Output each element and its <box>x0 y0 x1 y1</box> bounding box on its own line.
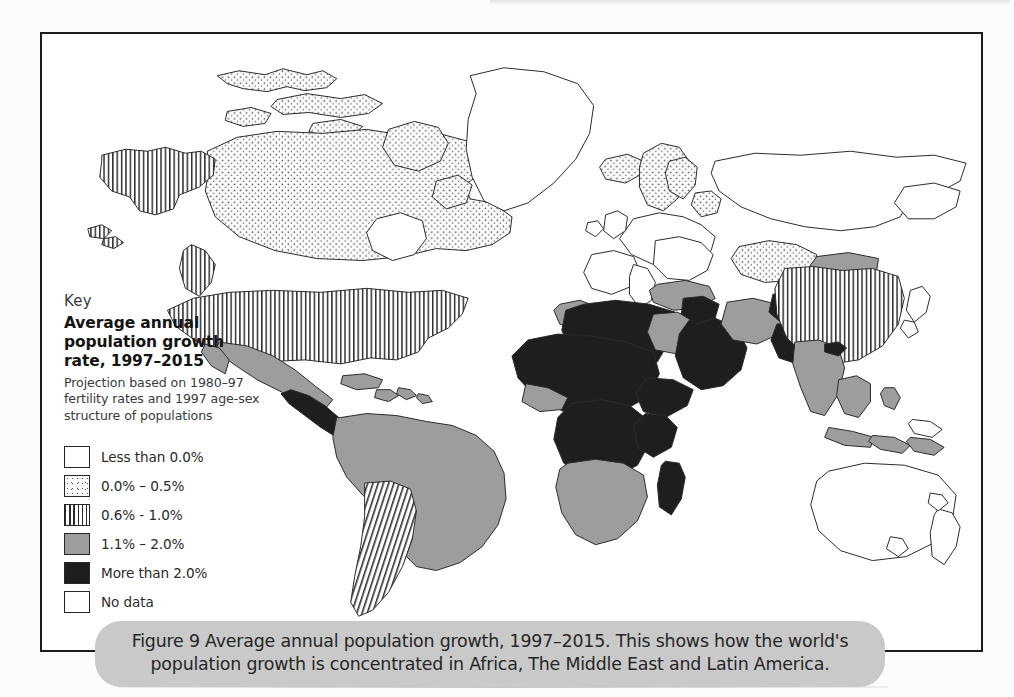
legend-subtitle-line-2: fertility rates and 1997 age-sex <box>64 391 274 408</box>
legend-item-more-than-2[interactable]: More than 2.0% <box>64 559 274 588</box>
legend-swatch-white-icon <box>64 446 90 468</box>
legend-title-line-1: Average annual <box>64 314 274 333</box>
legend-title-line-3: rate, 1997–2015 <box>64 352 274 371</box>
legend-item-label: More than 2.0% <box>101 565 207 581</box>
legend-item-0-6-to-1-0[interactable]: 0.6% - 1.0% <box>64 501 274 530</box>
legend-item-label: 0.0% – 0.5% <box>101 478 184 494</box>
legend-item-1-1-to-2-0[interactable]: 1.1% – 2.0% <box>64 530 274 559</box>
legend-item-label: Less than 0.0% <box>101 449 204 465</box>
legend-item-label: No data <box>101 594 154 610</box>
legend-item-0-to-0-5[interactable]: 0.0% – 0.5% <box>64 472 274 501</box>
legend-swatch-lines-icon <box>64 504 90 526</box>
legend-item-less-than-0[interactable]: Less than 0.0% <box>64 443 274 472</box>
legend-subtitle-line-3: structure of populations <box>64 408 274 425</box>
caption-line-2: population growth is concentrated in Afr… <box>121 653 859 676</box>
legend-title-line-2: population growth <box>64 333 274 352</box>
legend-subtitle-line-1: Projection based on 1980–97 <box>64 375 274 392</box>
legend-swatch-gray-icon <box>64 533 90 555</box>
legend-swatch-black-icon <box>64 562 90 584</box>
legend-key-word: Key <box>64 292 274 310</box>
figure-caption: Figure 9 Average annual population growt… <box>95 621 885 687</box>
legend-item-no-data[interactable]: No data <box>64 588 274 617</box>
legend-item-label: 1.1% – 2.0% <box>101 536 184 552</box>
map-legend: Key Average annual population growth rat… <box>64 292 274 617</box>
figure-frame: Key Average annual population growth rat… <box>40 32 983 652</box>
caption-line-1: Figure 9 Average annual population growt… <box>121 630 859 653</box>
scan-smudge-top <box>490 0 1010 5</box>
legend-items: Less than 0.0% 0.0% – 0.5% 0.6% - 1.0% 1… <box>64 443 274 617</box>
legend-swatch-dots-icon <box>64 475 90 497</box>
legend-item-label: 0.6% - 1.0% <box>101 507 183 523</box>
legend-swatch-nodata-icon <box>64 591 90 613</box>
